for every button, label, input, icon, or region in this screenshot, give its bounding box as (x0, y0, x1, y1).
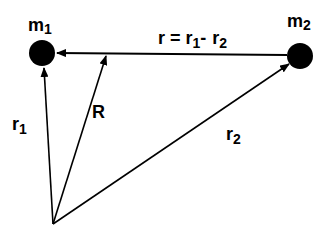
vector-r-line (57, 53, 287, 55)
diagram-canvas: m1 m2 r=r1-r2 r1 R r2 (0, 0, 334, 239)
label-m1: m1 (28, 15, 52, 37)
label-r2: r2 (226, 124, 241, 147)
label-relation: r=r1-r2 (158, 28, 227, 51)
mass-m1-dot (29, 40, 55, 66)
label-m2: m2 (287, 11, 311, 33)
mass-m2-dot (287, 43, 313, 69)
vector-r2-line (53, 64, 289, 224)
vector-R-line (53, 56, 106, 224)
label-R: R (92, 102, 105, 122)
vector-r1-line (44, 68, 53, 224)
label-r1: r1 (12, 114, 27, 137)
